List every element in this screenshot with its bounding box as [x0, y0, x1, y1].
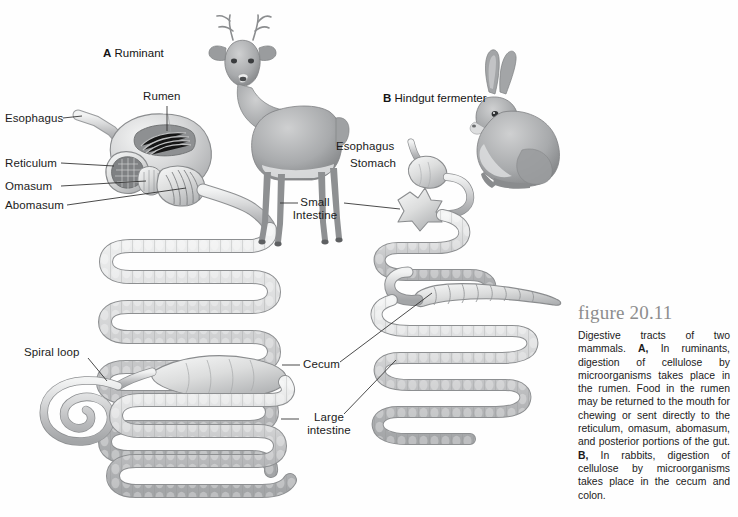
- caption-marker-a: A,: [638, 343, 648, 354]
- figure-page: A Ruminant B Hindgut fermenter Esophagus…: [0, 0, 738, 517]
- figure-number: figure 20.11: [578, 302, 730, 324]
- label-small-intestine: Small Intestine: [286, 196, 344, 222]
- figure-caption-text: Digestive tracts of two mammals. A, In r…: [578, 329, 730, 502]
- label-reticulum: Reticulum: [5, 157, 57, 170]
- panel-b-title: Hindgut fermenter: [395, 92, 487, 104]
- panel-b-header: B Hindgut fermenter: [383, 92, 487, 104]
- leader-reticulum: [61, 163, 114, 166]
- label-spiral-loop: Spiral loop: [24, 346, 79, 359]
- label-rumen: Rumen: [143, 90, 181, 103]
- panel-a-title: Ruminant: [115, 47, 164, 59]
- ruminant-duodenum: [203, 190, 270, 229]
- caption-marker-b: B,: [578, 450, 588, 461]
- ruminant-tract-group: [44, 114, 290, 491]
- caption-part-2: In ruminants, digestion of cellulose by …: [578, 343, 730, 447]
- label-abomasum: Abomasum: [5, 199, 64, 212]
- rabbit-illustration: [470, 50, 559, 189]
- leader-small-intestine-right: [344, 203, 400, 209]
- label-esophagus-ruminant: Esophagus: [5, 112, 63, 125]
- label-cecum: Cecum: [303, 358, 340, 371]
- panel-b-marker: B: [383, 92, 391, 104]
- label-large-intestine: Large intestine: [300, 411, 358, 437]
- ruminant-large-intestine: [113, 382, 290, 491]
- hindgut-large-intestine: [377, 300, 533, 439]
- figure-caption-block: figure 20.11 Digestive tracts of two mam…: [578, 302, 730, 502]
- hindgut-tract-group: [377, 142, 561, 439]
- panel-a-header: A Ruminant: [103, 47, 164, 59]
- label-omasum: Omasum: [5, 180, 52, 193]
- abomasum-organ: [157, 166, 205, 206]
- label-esophagus-hindgut: Esophagus: [336, 140, 394, 153]
- panel-a-marker: A: [103, 47, 111, 59]
- caption-part-3: In rabbits, digestion of cellulose by mi…: [578, 450, 730, 501]
- label-stomach-hindgut: Stomach: [350, 157, 396, 170]
- hindgut-esophagus: [411, 142, 418, 159]
- hindgut-stomach: [408, 156, 446, 188]
